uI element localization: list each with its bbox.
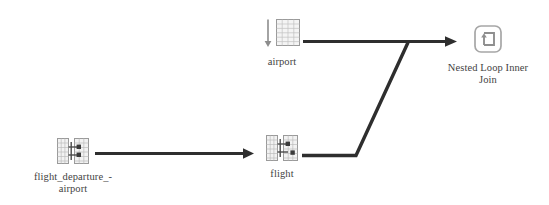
plan-node-nested-loop-inner-join[interactable]: Nested Loop Inner Join bbox=[427, 24, 549, 86]
plan-node-label: Nested Loop Inner Join bbox=[448, 62, 528, 86]
plan-node-label: airport bbox=[268, 56, 297, 68]
plan-node-flight[interactable]: flight bbox=[230, 133, 334, 180]
query-plan-canvas: flight_departure_- airport bbox=[0, 0, 549, 205]
plan-node-label: flight_departure_- airport bbox=[34, 171, 112, 195]
index-seek-icon[interactable] bbox=[55, 136, 91, 166]
plan-node-flight-departure-airport[interactable]: flight_departure_- airport bbox=[14, 136, 132, 195]
scan-arrow-icon bbox=[265, 20, 272, 48]
plan-node-airport[interactable]: airport bbox=[232, 17, 332, 68]
index-seek-icon[interactable] bbox=[264, 133, 300, 163]
table-scan-icon[interactable] bbox=[262, 17, 302, 50]
plan-node-label: flight bbox=[270, 168, 293, 180]
nested-loop-join-icon[interactable] bbox=[473, 24, 503, 54]
